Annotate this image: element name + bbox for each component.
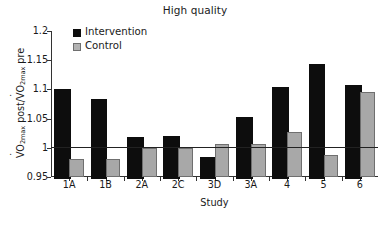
x-tick-label: 6 (357, 180, 363, 190)
legend-swatch-intervention-icon (73, 29, 81, 37)
bar-control-5 (324, 155, 339, 177)
legend-item-control: Control (73, 40, 147, 53)
y-tick-label: 1.05 (22, 114, 48, 124)
x-tick-label: 3A (244, 180, 257, 190)
bar-control-2C (178, 148, 193, 177)
x-tick-label: 1B (99, 180, 112, 190)
y-tick-mark (47, 177, 51, 178)
x-tick-label: 5 (320, 180, 326, 190)
x-axis-label: Study (51, 197, 378, 208)
bar-control-4 (287, 132, 302, 177)
legend-label-control: Control (85, 41, 122, 51)
legend-swatch-control-icon (73, 43, 81, 51)
bar-control-3A (251, 144, 266, 177)
chart-legend: Intervention Control (73, 26, 147, 54)
chart-title: High quality (0, 4, 390, 16)
bar-control-1B (106, 159, 121, 177)
chart-figure: High quality VO2max post/VO2max pre 0.95… (0, 0, 390, 227)
x-tick-label: 4 (284, 180, 290, 190)
x-tick-label: 3D (208, 180, 222, 190)
y-tick-label: 1.2 (22, 26, 48, 36)
bar-control-2A (142, 148, 157, 177)
bar-control-6 (360, 92, 375, 177)
x-tick-label: 1A (63, 180, 76, 190)
y-tick-label: 1 (22, 143, 48, 153)
y-axis-tick-labels: 0.9511.051.11.151.2 (22, 0, 48, 227)
legend-label-intervention: Intervention (85, 27, 147, 37)
x-tick-label: 2C (172, 180, 185, 190)
bar-control-1A (69, 159, 84, 177)
legend-item-intervention: Intervention (73, 26, 147, 39)
y-tick-label: 1.15 (22, 55, 48, 65)
y-tick-label: 1.1 (22, 85, 48, 95)
y-tick-label: 0.95 (22, 172, 48, 182)
reference-line (51, 147, 378, 148)
x-axis-tick-labels: 1A1B2A2C3D3A456 (51, 180, 378, 194)
bar-control-3D (215, 144, 230, 177)
x-tick-label: 2A (135, 180, 148, 190)
